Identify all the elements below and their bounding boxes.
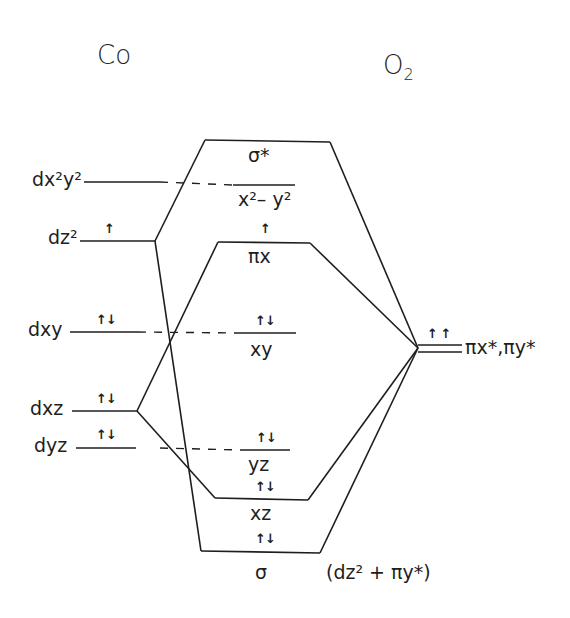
sigma-annotation: (dz² + πy*)	[326, 563, 431, 582]
ligand-title-main: O	[383, 50, 403, 80]
electron-arrows-sigma: ↑↓	[255, 532, 275, 545]
metal-orbital-label-dx2y2: dx²y²	[32, 170, 82, 189]
mo-label-yz: yz	[248, 455, 269, 474]
electron-arrows-dyz: ↑↓	[96, 428, 116, 441]
mo-label-x2y2: x²– y²	[238, 190, 291, 209]
mo-label-xy: xy	[250, 340, 273, 359]
electron-arrows-pix: ↑	[260, 222, 270, 235]
metal-orbital-label-dyz: dyz	[34, 436, 67, 455]
mo-label-pix: πx	[248, 247, 271, 266]
ligand-title-sub: 2	[403, 65, 413, 84]
electron-arrows-pi-star: ↑ ↑	[427, 327, 450, 340]
mo-diagram-lines	[0, 0, 570, 618]
electron-arrows-xy: ↑↓	[255, 314, 275, 327]
electron-arrows-dz2: ↑	[104, 222, 114, 235]
electron-arrows-yz: ↑↓	[256, 431, 276, 444]
level-sigma-star	[205, 140, 330, 142]
metal-orbital-label-dxy: dxy	[28, 320, 63, 339]
electron-arrows-xz: ↑↓	[255, 480, 275, 493]
metal-orbital-label-dxz: dxz	[30, 399, 63, 418]
mo-label-sigma: σ	[255, 563, 267, 582]
metal-orbital-label-dz2: dz²	[48, 228, 78, 247]
level-sigma	[201, 551, 320, 553]
ligand-title: O2	[383, 52, 414, 83]
mo-label-xz: xz	[250, 504, 271, 523]
level-pix	[218, 242, 310, 243]
level-xz	[215, 498, 308, 500]
electron-arrows-dxz: ↑↓	[96, 392, 116, 405]
electron-arrows-dxy: ↑↓	[96, 313, 116, 326]
ligand-orbital-label: πx*,πy*	[465, 338, 535, 357]
mo-label-sigma-star: σ*	[248, 146, 270, 165]
metal-title: Co	[97, 42, 131, 68]
